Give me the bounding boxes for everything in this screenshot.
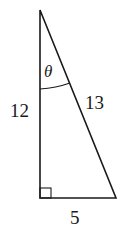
right-triangle-diagram: θ 12 13 5 — [0, 0, 123, 229]
angle-label: θ — [44, 62, 52, 81]
angle-arc — [40, 83, 70, 89]
triangle — [40, 10, 116, 198]
hypotenuse-label: 13 — [85, 92, 104, 113]
vertical-leg-label: 12 — [10, 100, 29, 121]
horizontal-leg-label: 5 — [70, 207, 80, 228]
right-angle-marker — [40, 188, 51, 198]
